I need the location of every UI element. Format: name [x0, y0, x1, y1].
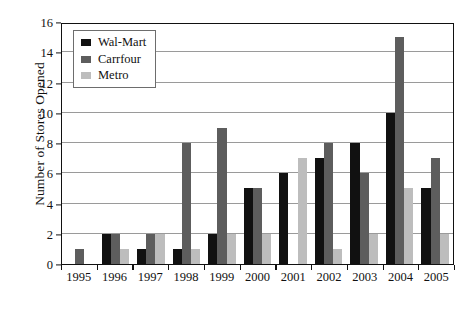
bar-group-2004 — [382, 24, 418, 264]
legend-item-walmart[interactable]: Wal-Mart — [81, 36, 146, 49]
x-tick-mark-1 — [97, 265, 98, 270]
bar-walmart-1997 — [137, 249, 146, 264]
legend-label-carrfour: Carrfour — [98, 53, 141, 66]
y-tick-label-10: 10 — [13, 108, 53, 121]
x-tick-label-1995: 1995 — [61, 270, 97, 285]
chart-legend: Wal-MartCarrfourMetro — [73, 30, 156, 88]
legend-label-walmart: Wal-Mart — [98, 36, 146, 49]
bar-metro-2004 — [404, 188, 413, 264]
bar-carrfour-1996 — [111, 234, 120, 264]
bar-walmart-2003 — [350, 143, 359, 264]
bar-carrfour-2000 — [253, 188, 262, 264]
bar-carrfour-2005 — [431, 158, 440, 264]
bar-group-1999 — [204, 24, 240, 264]
y-tick-label-4: 4 — [13, 198, 53, 211]
x-tick-mark-0 — [61, 265, 62, 270]
bar-walmart-2001 — [279, 173, 288, 264]
bar-carrfour-1998 — [182, 143, 191, 264]
x-tick-mark-5 — [240, 265, 241, 270]
x-tick-label-2001: 2001 — [275, 270, 311, 285]
bar-walmart-1996 — [102, 234, 111, 264]
bar-group-2003 — [346, 24, 382, 264]
x-tick-label-2004: 2004 — [383, 270, 419, 285]
bar-carrfour-2004 — [395, 37, 404, 264]
y-tick-label-8: 8 — [13, 138, 53, 151]
x-tick-label-1998: 1998 — [168, 270, 204, 285]
legend-item-carrfour[interactable]: Carrfour — [81, 53, 146, 66]
bar-metro-1996 — [120, 249, 129, 264]
x-tick-mark-2 — [132, 265, 133, 270]
y-tick-label-16: 16 — [13, 17, 53, 30]
x-tick-label-2000: 2000 — [240, 270, 276, 285]
legend-swatch-icon-walmart — [81, 39, 91, 46]
bar-walmart-2000 — [244, 188, 253, 264]
x-tick-label-2005: 2005 — [418, 270, 454, 285]
x-tick-mark-9 — [383, 265, 384, 270]
bar-metro-2000 — [262, 234, 271, 264]
bar-group-2002 — [311, 24, 347, 264]
bar-walmart-2005 — [421, 188, 430, 264]
y-tick-label-0: 0 — [13, 259, 53, 272]
x-tick-label-1996: 1996 — [97, 270, 133, 285]
bar-metro-1997 — [155, 234, 164, 264]
bar-carrfour-1997 — [146, 234, 155, 264]
x-tick-label-1997: 1997 — [132, 270, 168, 285]
legend-item-metro[interactable]: Metro — [81, 69, 146, 82]
x-tick-mark-4 — [204, 265, 205, 270]
bar-metro-2005 — [440, 234, 449, 264]
bar-walmart-2004 — [386, 113, 395, 264]
bar-metro-2003 — [369, 234, 378, 264]
legend-swatch-icon-metro — [81, 72, 91, 79]
x-tick-mark-3 — [168, 265, 169, 270]
bar-metro-2002 — [333, 249, 342, 264]
bar-metro-1999 — [227, 234, 236, 264]
bar-metro-1998 — [191, 249, 200, 264]
bar-group-1998 — [169, 24, 205, 264]
bar-walmart-1999 — [208, 234, 217, 264]
x-tick-mark-7 — [311, 265, 312, 270]
x-tick-mark-10 — [418, 265, 419, 270]
y-tick-label-12: 12 — [13, 77, 53, 90]
bar-carrfour-1999 — [217, 128, 226, 264]
bar-carrfour-2003 — [360, 173, 369, 264]
bar-group-2005 — [417, 24, 453, 264]
x-tick-label-2002: 2002 — [311, 270, 347, 285]
bar-chart-figure: Number of Stores Opened 0246810121416 19… — [0, 0, 472, 309]
x-tick-label-1999: 1999 — [204, 270, 240, 285]
bar-walmart-1998 — [173, 249, 182, 264]
y-tick-label-2: 2 — [13, 229, 53, 242]
x-tick-label-2003: 2003 — [347, 270, 383, 285]
x-tick-mark-6 — [275, 265, 276, 270]
bar-group-2000 — [240, 24, 276, 264]
legend-swatch-icon-carrfour — [81, 56, 91, 63]
y-tick-label-14: 14 — [13, 47, 53, 60]
y-tick-label-6: 6 — [13, 168, 53, 181]
bar-walmart-2002 — [315, 158, 324, 264]
bar-metro-2001 — [298, 158, 307, 264]
x-axis-ticks: 1995199619971998199920002001200220032004… — [61, 270, 454, 285]
bar-carrfour-1995 — [75, 249, 84, 264]
x-tick-mark-11 — [454, 265, 455, 270]
bar-carrfour-2002 — [324, 143, 333, 264]
x-tick-mark-8 — [347, 265, 348, 270]
bar-group-2001 — [275, 24, 311, 264]
legend-label-metro: Metro — [98, 69, 129, 82]
